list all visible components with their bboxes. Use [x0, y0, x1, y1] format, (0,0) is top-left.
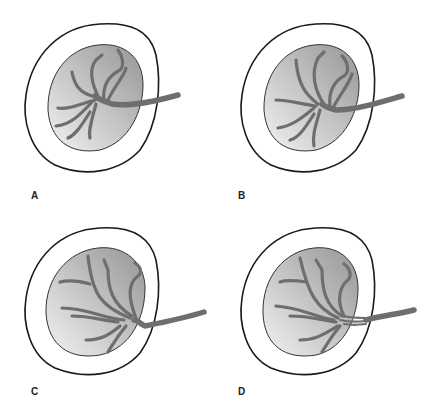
panel-b: B	[216, 0, 432, 208]
panel-a: A	[0, 0, 216, 208]
panel-label-a: A	[31, 190, 38, 201]
panel-label-b: B	[238, 190, 245, 201]
placenta-diagram-b	[216, 0, 432, 208]
panel-d: D	[216, 208, 432, 416]
panel-label-d: D	[238, 386, 245, 397]
placenta-diagram-d	[216, 208, 432, 417]
panel-c: C	[0, 208, 216, 416]
panel-label-c: C	[31, 386, 38, 397]
placenta-diagram-a	[0, 0, 216, 208]
